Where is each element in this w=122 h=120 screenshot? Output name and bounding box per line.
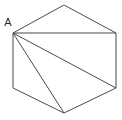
geometry-figure: A xyxy=(0,0,122,120)
hexagon-outline xyxy=(13,5,116,113)
hexagon-diagram-svg: A xyxy=(0,0,122,120)
vertex-label-a: A xyxy=(4,16,12,28)
